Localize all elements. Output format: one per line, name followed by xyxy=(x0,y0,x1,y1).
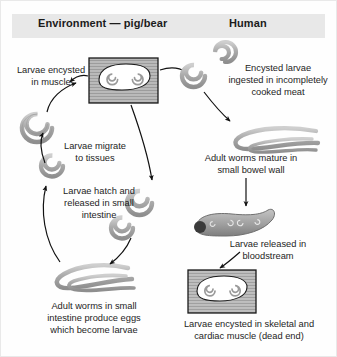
arrow-muscle-to-hatch xyxy=(131,105,152,180)
muscle-block-human xyxy=(188,270,256,313)
caption-encysted-larvae-ingested: Encysted larvae ingested in incompletely… xyxy=(224,62,332,99)
caption-larvae-released-bloodstream: Larvae released in bloodstream xyxy=(222,238,314,262)
caption-larvae-encysted-skeletal: Larvae encysted in skeletal and cardiac … xyxy=(168,318,330,342)
caption-larvae-migrate-tissues: Larvae migrate to tissues xyxy=(56,140,134,164)
coiled-larva-migrating xyxy=(22,114,52,142)
bowel-segment-human xyxy=(194,209,275,236)
caption-larvae-encysted-muscle: Larvae encysted in muscle xyxy=(14,64,88,88)
caption-larvae-hatch-released: Larvae hatch and released in small intes… xyxy=(58,185,140,222)
coiled-larva-human-a xyxy=(182,65,205,87)
adult-worms-pig xyxy=(57,265,134,290)
trichinella-life-cycle-figure: Environment — pig/bear Human xyxy=(0,0,337,357)
arrow-hatch-to-adult xyxy=(110,238,131,264)
caption-adult-worms-small-intestine: Adult worms in small intestine produce e… xyxy=(28,300,160,337)
coiled-larva-human-b xyxy=(215,42,236,62)
adult-worms-human xyxy=(236,128,318,152)
caption-adult-worms-mature-bowel: Adult worms mature in small bowel wall xyxy=(196,152,306,176)
muscle-block-pig xyxy=(89,58,158,103)
